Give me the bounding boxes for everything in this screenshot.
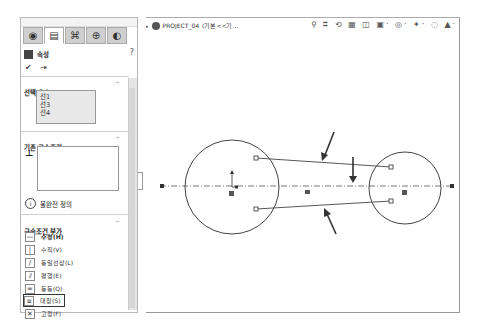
symmetric-icon: ⧈ [24, 296, 34, 306]
line-endpoint [254, 156, 258, 160]
relation-equal[interactable]: = 동등(Q) [25, 283, 62, 294]
large-circle-center [229, 191, 234, 196]
graphics-area[interactable]: ▸ PROJECT_04 (기본<<기... ⚲ ⌗ ⟲ ▦ ◫ ▣· ◎· ✦… [146, 17, 460, 313]
list-item[interactable]: 선1 [40, 93, 92, 101]
tab-property-manager[interactable]: ▤ [44, 27, 64, 44]
property-manager-icon: ▤ [49, 30, 58, 41]
display-manager-icon: ◐ [113, 30, 122, 41]
origin-point [235, 186, 238, 189]
collapse-icon[interactable]: ^ [115, 135, 120, 142]
tab-feature-manager[interactable]: ◉ [23, 27, 43, 44]
tab-configuration-manager[interactable]: ⌘ [65, 27, 85, 44]
pin-button[interactable]: ⇥ [40, 63, 47, 72]
relation-parallel[interactable]: ⫽ 평행(E) [25, 270, 61, 281]
property-manager-panel: ◦ ◉ ▤ ⌘ ⊕ ◐ 속성 ? ✔ ⇥ 선택 요소 ^ 선1 선3 선4 기존… [20, 17, 138, 313]
relations-icon: ⊥ [25, 148, 33, 158]
dimxpert-icon: ⊕ [92, 30, 100, 41]
vertical-icon: | [25, 245, 35, 255]
parallel-icon: ⫽ [25, 271, 35, 281]
relation-collinear[interactable]: / 동일선상(L) [25, 257, 73, 268]
panel-grip[interactable]: ◦ [21, 18, 137, 27]
property-header: 속성 ? [24, 48, 136, 60]
scrollbar-thumb[interactable] [129, 88, 135, 308]
panel-title: 속성 [37, 49, 49, 59]
collapse-icon[interactable]: ^ [115, 80, 120, 87]
ok-button[interactable]: ✔ [25, 63, 32, 72]
tab-dimxpert[interactable]: ⊕ [86, 27, 106, 44]
small-circle [369, 152, 441, 224]
fix-icon: ✕ [25, 309, 35, 319]
collinear-icon: / [25, 258, 35, 268]
horizontal-icon: — [25, 232, 35, 242]
relation-vertical[interactable]: | 수직(V) [25, 244, 62, 255]
centerline-endpoint [160, 184, 164, 188]
help-icon[interactable]: ? [130, 48, 134, 57]
midpoint-marker [305, 190, 310, 194]
tab-display-manager[interactable]: ◐ [107, 27, 127, 44]
list-item[interactable]: 선3 [40, 101, 92, 109]
properties-icon [24, 50, 33, 59]
equal-icon: = [25, 284, 35, 294]
line-endpoint [389, 199, 393, 203]
origin-arrow [230, 170, 234, 174]
panel-splitter-handle[interactable] [138, 172, 143, 190]
divider [21, 76, 129, 77]
line-endpoint [254, 207, 258, 211]
small-circle-center [402, 190, 407, 195]
annotation-arrow [327, 214, 336, 234]
configuration-manager-icon: ⌘ [70, 30, 80, 41]
list-item[interactable]: 선4 [40, 109, 92, 117]
manager-tabs: ◉ ▤ ⌘ ⊕ ◐ [21, 27, 137, 45]
info-icon: i [25, 198, 36, 209]
relation-horizontal[interactable]: — 수평(H) [25, 231, 64, 242]
line-endpoint [389, 165, 393, 169]
selected-entities-list[interactable]: 선1 선3 선4 [36, 90, 96, 124]
centerline-endpoint [450, 184, 454, 188]
action-buttons: ✔ ⇥ [25, 63, 47, 72]
feature-manager-icon: ◉ [29, 30, 38, 41]
divider [21, 214, 129, 215]
status-row: i 불완전 정의 [25, 198, 72, 209]
divider [21, 131, 129, 132]
relation-fix[interactable]: ✕ 고정(F) [25, 308, 61, 319]
collapse-icon[interactable]: ^ [115, 219, 120, 226]
sketch-canvas[interactable] [146, 18, 460, 314]
relation-symmetric[interactable]: ⧈ 대칭(S) [24, 295, 64, 306]
status-text: 불완전 정의 [40, 199, 72, 209]
existing-relations-list[interactable] [37, 146, 119, 191]
annotation-arrow [325, 132, 334, 155]
